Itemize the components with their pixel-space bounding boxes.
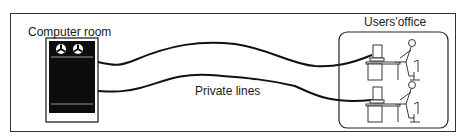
workstation-user-icon bbox=[366, 40, 420, 81]
private-line-upper bbox=[98, 43, 372, 67]
tape-reel-icon bbox=[56, 44, 66, 54]
computer-cabinet-icon bbox=[46, 38, 98, 122]
users-office-box bbox=[339, 32, 448, 128]
private-lines-label: Private lines bbox=[195, 84, 260, 98]
workstation-user-icon bbox=[366, 82, 420, 123]
tape-reel-icon bbox=[73, 44, 83, 54]
computer-room-label: Computer room bbox=[28, 25, 111, 39]
users-office-label: Users'office bbox=[364, 15, 426, 29]
